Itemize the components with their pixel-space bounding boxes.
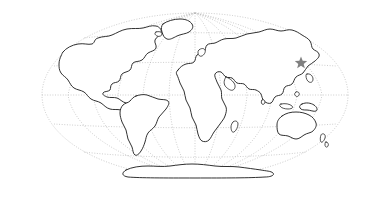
world-map-figure [0, 0, 389, 201]
world-map-svg [0, 0, 389, 201]
land-philippines [295, 92, 300, 97]
land-sri-lanka [261, 100, 265, 105]
land-iceland [155, 32, 162, 37]
